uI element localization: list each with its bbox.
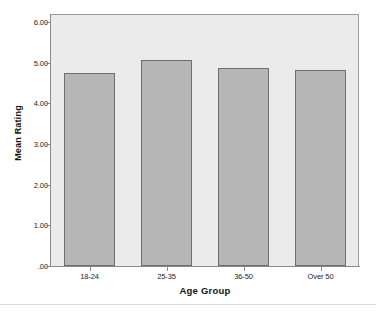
- bar-slot: [295, 14, 346, 266]
- bar-slot: [141, 14, 192, 266]
- y-axis-tick-mark: [46, 63, 51, 64]
- bar: [141, 60, 192, 266]
- x-axis-tick-mark: [167, 267, 168, 271]
- y-axis-tick-mark: [46, 144, 51, 145]
- bar: [218, 68, 269, 266]
- x-axis-tick-label: 18-24: [80, 272, 99, 281]
- y-axis-tick-labels: 6.005.004.003.002.001.00.00: [22, 0, 48, 311]
- bar-chart: Mean Rating 6.005.004.003.002.001.00.00 …: [0, 0, 376, 311]
- y-axis-tick-mark: [46, 103, 51, 104]
- y-axis-tick-mark: [46, 266, 51, 267]
- y-axis-tick-mark: [46, 225, 51, 226]
- y-axis-tick-mark: [46, 185, 51, 186]
- bar: [295, 70, 346, 266]
- bar-slot: [64, 14, 115, 266]
- x-axis-title: Age Group: [51, 285, 359, 296]
- footer-divider: [0, 304, 376, 305]
- x-axis-tick-mark: [321, 267, 322, 271]
- bar: [64, 73, 115, 266]
- x-axis-line: [50, 266, 360, 267]
- y-axis-tick-mark: [46, 22, 51, 23]
- x-axis-tick-mark: [90, 267, 91, 271]
- x-axis-tick-label: Over 50: [308, 272, 334, 281]
- x-axis-tick-label: 36-50: [234, 272, 253, 281]
- bars-layer: [51, 14, 359, 266]
- x-axis-tick-label: 25-35: [157, 272, 176, 281]
- bar-slot: [218, 14, 269, 266]
- x-axis-tick-mark: [244, 267, 245, 271]
